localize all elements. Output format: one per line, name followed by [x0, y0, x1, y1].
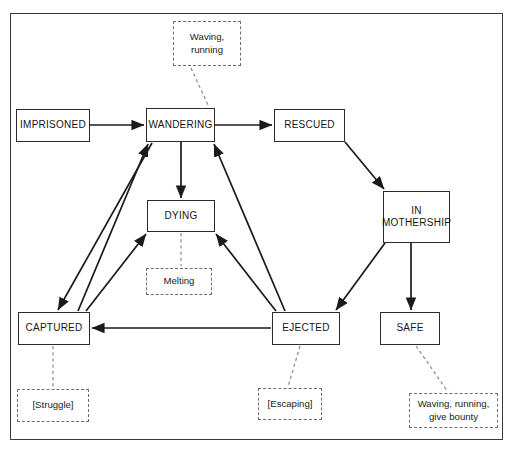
note-ejected: [Escaping]: [258, 388, 322, 420]
state-node-dying[interactable]: DYING: [147, 200, 215, 232]
note-dying: Melting: [146, 268, 212, 295]
note-label: [Escaping]: [268, 398, 313, 410]
state-node-safe[interactable]: SAFE: [380, 312, 440, 345]
state-label: CAPTURED: [25, 322, 82, 334]
state-label: IMPRISONED: [20, 119, 86, 131]
diagram-canvas: IMPRISONED WANDERING RESCUED INMOTHERSHI…: [0, 0, 512, 455]
note-label: Waving,running: [190, 31, 224, 56]
state-node-rescued[interactable]: RESCUED: [274, 109, 345, 142]
state-label: DYING: [165, 210, 198, 222]
state-label: WANDERING: [148, 119, 212, 131]
state-node-in-mothership[interactable]: INMOTHERSHIP: [383, 191, 450, 243]
state-label: INMOTHERSHIP: [382, 205, 451, 229]
state-label: EJECTED: [282, 322, 329, 334]
note-label: [Struggle]: [32, 399, 73, 411]
note-label: Waving, running,give bounty: [418, 398, 490, 423]
note-safe: Waving, running,give bounty: [409, 393, 498, 428]
note-label: Melting: [164, 275, 195, 287]
note-wandering: Waving,running: [173, 21, 241, 66]
note-captured: [Struggle]: [17, 389, 89, 422]
state-node-ejected[interactable]: EJECTED: [272, 312, 340, 345]
state-label: RESCUED: [284, 119, 335, 131]
state-node-imprisoned[interactable]: IMPRISONED: [16, 109, 90, 142]
state-label: SAFE: [396, 322, 423, 334]
state-node-captured[interactable]: CAPTURED: [18, 312, 90, 345]
state-node-wandering[interactable]: WANDERING: [146, 108, 215, 142]
